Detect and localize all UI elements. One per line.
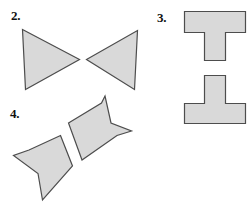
item-4-figures [14, 96, 132, 200]
figures-canvas [0, 0, 252, 205]
right-triangle-shape [87, 31, 138, 90]
upright-t-shape [185, 12, 246, 61]
item-number-3: 3. [157, 11, 166, 24]
lower-left-quad-shape [14, 136, 73, 201]
item-number-2: 2. [11, 9, 20, 22]
worksheet-page: 2. 3. 4. [0, 0, 252, 205]
item-number-4: 4. [10, 107, 19, 120]
left-triangle-shape [23, 30, 80, 90]
upper-right-quad-shape [69, 96, 132, 160]
item-3-figures [185, 12, 246, 124]
inverted-t-shape [185, 76, 246, 124]
item-2-figures [23, 30, 138, 90]
